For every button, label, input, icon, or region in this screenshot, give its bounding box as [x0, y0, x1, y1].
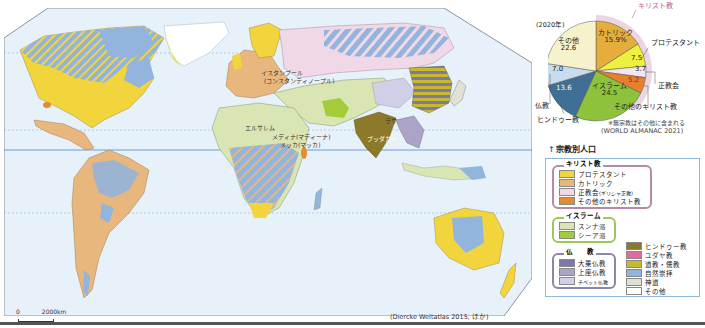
legend-item-hindu: ヒンドゥー教: [626, 242, 687, 250]
pie-segment-other: その他22.6: [558, 38, 579, 53]
city-label-bodh-gaya: ブッダガヤ: [367, 136, 397, 142]
map-svg: [4, 8, 532, 316]
up-arrow-icon: ↑: [548, 145, 555, 154]
pie-segment-catholic: カトリック15.9%: [598, 30, 633, 45]
legend-item-shinto: 神道: [626, 278, 659, 286]
pie-label-orthodox: 正教会: [658, 83, 679, 90]
pie-group-label-christianity: キリスト教: [638, 3, 673, 10]
city-label-lhasa: ラサ: [385, 118, 397, 124]
legend-item-sunni: スンナ派: [559, 222, 606, 230]
legend-item-mahayana: 大乗仏教: [559, 259, 606, 267]
city-label-istanbul: イスタンブール: [261, 70, 303, 76]
city-label-mecca: メッカ(マッカ): [280, 142, 321, 148]
pie-label-hindu: ヒンドゥー教: [537, 117, 579, 124]
swatch: [559, 170, 575, 178]
religion-pie-chart: (2020年) キリスト教 カトリック15.9% プロテスタント 7.5 3.7…: [548, 0, 705, 140]
pie-year-label: (2020年): [536, 22, 565, 29]
pie-segment-islam: イスラーム24.5: [592, 83, 627, 98]
legend-item-other: その他: [626, 287, 666, 295]
legend-item-other-christian: その他のキリスト教: [559, 197, 641, 205]
legend-item-tibetan: チベット仏教: [559, 277, 608, 285]
legend-group-buddhism: 仏 教 大乗仏教 上座仏教 チベット仏教: [552, 253, 616, 289]
map-legend: キリスト教 プロテスタント カトリック 正教会(ギリシャ正教) その他のキリスト…: [545, 158, 700, 297]
legend-group-christianity: キリスト教 プロテスタント カトリック 正教会(ギリシャ正教) その他のキリスト…: [552, 165, 652, 209]
pie-value-orthodox: 3.7: [635, 66, 646, 73]
legend-item-protestant: プロテスタント: [559, 170, 627, 178]
page-divider: [0, 322, 705, 325]
legend-item-animism: 自然崇拝: [626, 269, 673, 277]
pie-value-protestant: 7.5: [631, 55, 642, 62]
city-label-istanbul-sub: (コンスタンティノープル): [264, 78, 335, 84]
legend-item-orthodox: 正教会(ギリシャ正教): [559, 188, 633, 196]
caption-title: 宗教別人口: [556, 145, 596, 154]
pie-value-hindu: 13.6: [556, 85, 572, 92]
legend-group-islam: イスラーム スンナ派 シーア派: [552, 217, 616, 243]
pie-note: ※無宗教はその他に含まれる: [608, 118, 685, 127]
legend-item-judaism: ユダヤ教: [626, 251, 673, 259]
legend-item-taoism-confucianism: 道教・儒教: [626, 260, 680, 268]
city-label-jerusalem: エルサレム: [245, 125, 275, 131]
pie-value-other-christian: 5.2: [628, 77, 639, 84]
pie-label-other-christian: その他のキリスト教: [614, 104, 677, 111]
scale-label: 02000km: [16, 308, 66, 315]
pie-label-buddhism: 仏教: [535, 103, 549, 110]
city-label-medina: メディナ(マディーナ): [272, 134, 331, 140]
legend-item-shia: シーア派: [559, 231, 606, 239]
map-source: (Diercke Weltatlas 2015, ほか): [390, 311, 488, 321]
pie-value-buddhism: 7.0: [552, 66, 563, 73]
legend-item-theravada: 上座仏教: [559, 268, 606, 276]
pie-source: (WORLD ALMANAC 2021): [601, 127, 683, 135]
pie-label-protestant: プロテスタント: [651, 40, 700, 47]
legend-item-catholic: カトリック: [559, 179, 613, 187]
world-religion-map: イスタンブール (コンスタンティノープル) エルサレム メディナ(マディーナ) …: [4, 8, 532, 316]
chart-caption: ↑宗教別人口: [548, 143, 596, 154]
